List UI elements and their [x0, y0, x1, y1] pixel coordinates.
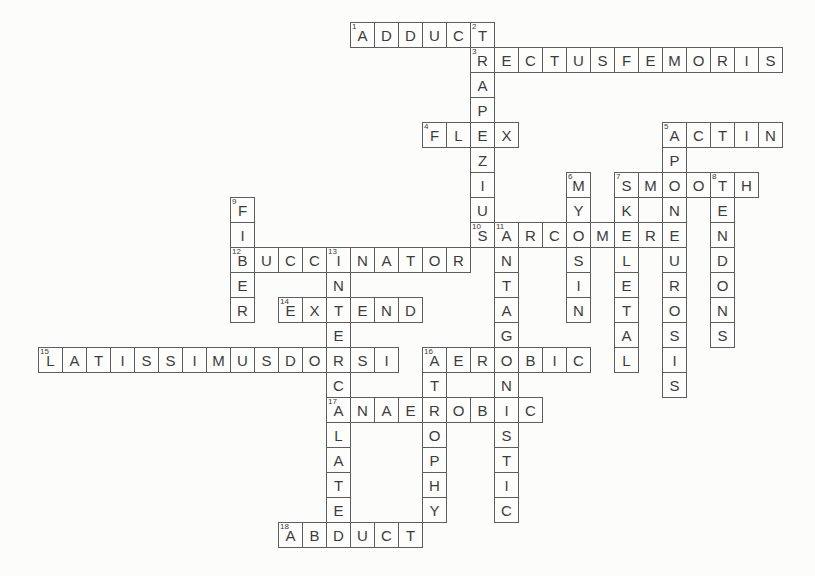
crossword-cell[interactable]: R	[326, 347, 351, 373]
crossword-cell[interactable]: 4F	[422, 122, 447, 148]
crossword-cell[interactable]: C	[278, 247, 303, 273]
crossword-cell[interactable]: T	[614, 297, 639, 323]
crossword-cell[interactable]: I	[230, 222, 255, 248]
crossword-cell[interactable]: R	[662, 272, 687, 298]
crossword-cell[interactable]: E	[398, 397, 423, 423]
crossword-cell[interactable]: I	[494, 397, 519, 423]
crossword-cell[interactable]: D	[398, 22, 423, 48]
crossword-cell[interactable]: A	[470, 72, 495, 98]
crossword-cell[interactable]: S	[662, 372, 687, 398]
crossword-cell[interactable]: D	[398, 297, 423, 323]
crossword-cell[interactable]: 1A	[350, 22, 375, 48]
crossword-cell[interactable]: M	[206, 347, 231, 373]
crossword-cell[interactable]: E	[662, 222, 687, 248]
crossword-cell[interactable]: U	[470, 197, 495, 223]
crossword-cell[interactable]: S	[566, 247, 591, 273]
crossword-cell[interactable]: N	[374, 297, 399, 323]
crossword-cell[interactable]: A	[326, 447, 351, 473]
crossword-cell[interactable]: 10S	[470, 222, 495, 248]
crossword-cell[interactable]: 18A	[278, 522, 303, 548]
crossword-cell[interactable]: R	[446, 247, 471, 273]
crossword-cell[interactable]: I	[374, 347, 399, 373]
crossword-cell[interactable]: R	[230, 297, 255, 323]
crossword-cell[interactable]: S	[758, 47, 783, 73]
crossword-cell[interactable]: O	[422, 247, 447, 273]
crossword-cell[interactable]: I	[734, 47, 759, 73]
crossword-cell[interactable]: D	[374, 22, 399, 48]
crossword-cell[interactable]: S	[494, 422, 519, 448]
crossword-cell[interactable]: C	[686, 122, 711, 148]
crossword-cell[interactable]: B	[302, 522, 327, 548]
crossword-cell[interactable]: P	[422, 447, 447, 473]
crossword-cell[interactable]: 11A	[494, 222, 519, 248]
crossword-cell[interactable]: N	[350, 397, 375, 423]
crossword-cell[interactable]: O	[662, 172, 687, 198]
crossword-cell[interactable]: S	[158, 347, 183, 373]
crossword-cell[interactable]: L	[614, 347, 639, 373]
crossword-cell[interactable]: T	[710, 122, 735, 148]
crossword-cell[interactable]: E	[326, 322, 351, 348]
crossword-cell[interactable]: R	[710, 47, 735, 73]
crossword-cell[interactable]: 6M	[566, 172, 591, 198]
crossword-cell[interactable]: I	[470, 172, 495, 198]
crossword-cell[interactable]: O	[422, 422, 447, 448]
crossword-cell[interactable]: T	[398, 522, 423, 548]
crossword-cell[interactable]: U	[350, 522, 375, 548]
crossword-cell[interactable]: R	[422, 397, 447, 423]
crossword-cell[interactable]: E	[470, 122, 495, 148]
crossword-cell[interactable]: 5A	[662, 122, 687, 148]
crossword-cell[interactable]: S	[254, 347, 279, 373]
crossword-cell[interactable]: N	[758, 122, 783, 148]
crossword-cell[interactable]: E	[350, 297, 375, 323]
crossword-cell[interactable]: A	[494, 297, 519, 323]
crossword-cell[interactable]: C	[374, 522, 399, 548]
crossword-cell[interactable]: S	[710, 322, 735, 348]
crossword-cell[interactable]: 14E	[278, 297, 303, 323]
crossword-cell[interactable]: T	[398, 247, 423, 273]
crossword-cell[interactable]: C	[494, 497, 519, 523]
crossword-cell[interactable]: B	[470, 397, 495, 423]
crossword-cell[interactable]: C	[518, 397, 543, 423]
crossword-cell[interactable]: 15L	[38, 347, 63, 373]
crossword-cell[interactable]: E	[638, 47, 663, 73]
crossword-cell[interactable]: O	[494, 347, 519, 373]
crossword-cell[interactable]: N	[710, 297, 735, 323]
crossword-cell[interactable]: L	[326, 422, 351, 448]
crossword-cell[interactable]: P	[470, 97, 495, 123]
crossword-cell[interactable]: E	[446, 347, 471, 373]
crossword-cell[interactable]: E	[614, 272, 639, 298]
crossword-cell[interactable]: R	[518, 222, 543, 248]
crossword-cell[interactable]: E	[710, 197, 735, 223]
crossword-cell[interactable]: U	[254, 247, 279, 273]
crossword-cell[interactable]: C	[566, 347, 591, 373]
crossword-cell[interactable]: D	[710, 247, 735, 273]
crossword-cell[interactable]: R	[638, 222, 663, 248]
crossword-cell[interactable]: I	[110, 347, 135, 373]
crossword-cell[interactable]: K	[614, 197, 639, 223]
crossword-cell[interactable]: T	[494, 272, 519, 298]
crossword-cell[interactable]: O	[662, 297, 687, 323]
crossword-cell[interactable]: G	[494, 322, 519, 348]
crossword-cell[interactable]: O	[302, 347, 327, 373]
crossword-cell[interactable]: E	[494, 47, 519, 73]
crossword-cell[interactable]: B	[518, 347, 543, 373]
crossword-cell[interactable]: A	[614, 322, 639, 348]
crossword-cell[interactable]: C	[518, 47, 543, 73]
crossword-cell[interactable]: C	[302, 247, 327, 273]
crossword-cell[interactable]: O	[566, 222, 591, 248]
crossword-cell[interactable]: N	[710, 222, 735, 248]
crossword-cell[interactable]: N	[494, 372, 519, 398]
crossword-cell[interactable]: M	[638, 172, 663, 198]
crossword-cell[interactable]: E	[614, 222, 639, 248]
crossword-cell[interactable]: P	[662, 147, 687, 173]
crossword-cell[interactable]: C	[542, 222, 567, 248]
crossword-cell[interactable]: X	[494, 122, 519, 148]
crossword-cell[interactable]: U	[566, 47, 591, 73]
crossword-cell[interactable]: S	[350, 347, 375, 373]
crossword-cell[interactable]: 12B	[230, 247, 255, 273]
crossword-cell[interactable]: 16A	[422, 347, 447, 373]
crossword-cell[interactable]: A	[62, 347, 87, 373]
crossword-cell[interactable]: 13I	[326, 247, 351, 273]
crossword-cell[interactable]: S	[662, 322, 687, 348]
crossword-cell[interactable]: F	[614, 47, 639, 73]
